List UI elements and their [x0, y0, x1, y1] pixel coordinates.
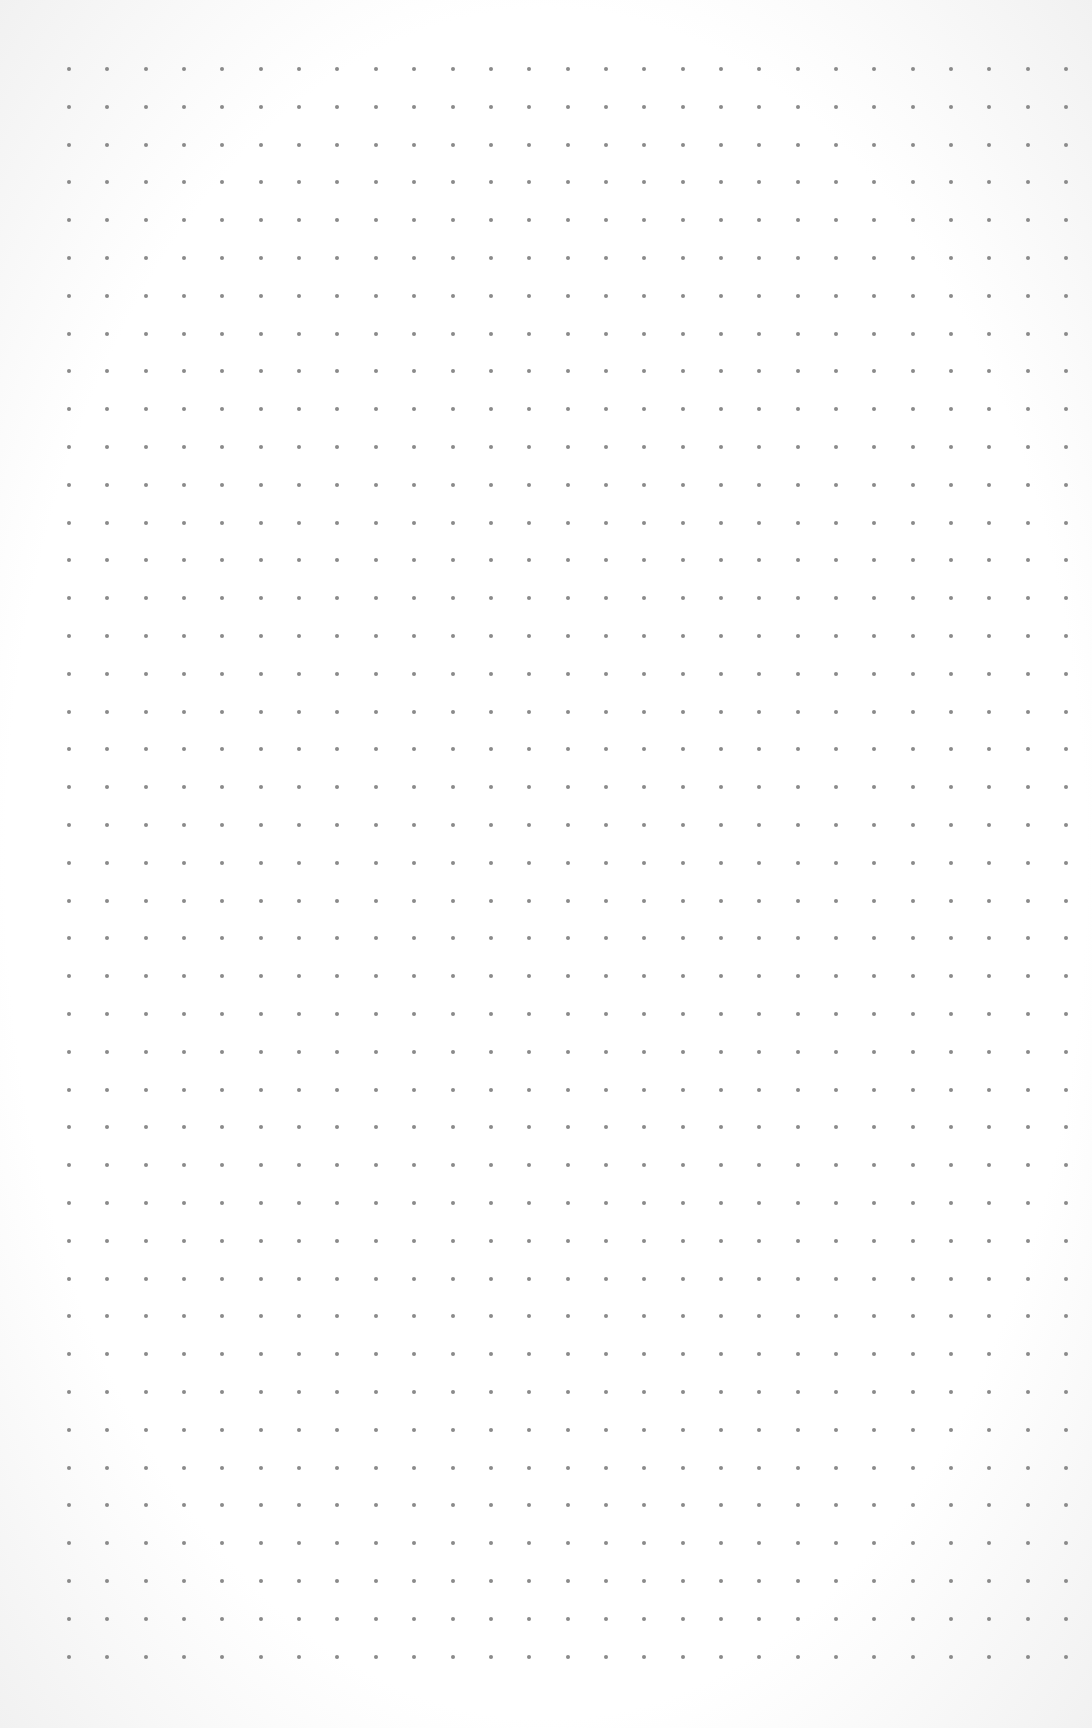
- grid-dot: [1026, 67, 1030, 71]
- grid-dot: [182, 1503, 186, 1507]
- grid-dot: [1026, 105, 1030, 109]
- grid-dot: [259, 558, 263, 562]
- grid-dot: [67, 1125, 71, 1129]
- grid-dot: [1064, 1579, 1068, 1583]
- grid-dot: [719, 1579, 723, 1583]
- grid-dot: [911, 143, 915, 147]
- grid-dot: [105, 1503, 109, 1507]
- grid-dot: [412, 747, 416, 751]
- grid-dot: [566, 294, 570, 298]
- grid-dot: [949, 974, 953, 978]
- grid-dot: [297, 1277, 301, 1281]
- grid-dot: [1026, 1579, 1030, 1583]
- grid-dot: [105, 558, 109, 562]
- grid-dot: [642, 1428, 646, 1432]
- grid-dot: [872, 180, 876, 184]
- grid-dot: [911, 369, 915, 373]
- grid-dot: [757, 67, 761, 71]
- grid-dot: [1026, 1050, 1030, 1054]
- grid-dot: [105, 67, 109, 71]
- grid-dot: [220, 218, 224, 222]
- grid-dot: [566, 332, 570, 336]
- grid-dot: [335, 218, 339, 222]
- grid-dot: [796, 1125, 800, 1129]
- grid-dot: [144, 445, 148, 449]
- grid-dot: [566, 1163, 570, 1167]
- grid-dot: [681, 1466, 685, 1470]
- grid-dot: [527, 67, 531, 71]
- grid-dot: [719, 218, 723, 222]
- grid-dot: [527, 180, 531, 184]
- grid-dot: [987, 67, 991, 71]
- grid-dot: [335, 1125, 339, 1129]
- grid-dot: [297, 67, 301, 71]
- grid-dot: [911, 218, 915, 222]
- grid-dot: [412, 936, 416, 940]
- grid-dot: [757, 861, 761, 865]
- grid-dot: [566, 1239, 570, 1243]
- grid-dot: [105, 785, 109, 789]
- grid-dot: [1026, 747, 1030, 751]
- grid-dot: [642, 1617, 646, 1621]
- grid-dot: [1064, 823, 1068, 827]
- grid-dot: [642, 369, 646, 373]
- grid-dot: [489, 143, 493, 147]
- grid-dot: [489, 218, 493, 222]
- grid-dot: [1026, 483, 1030, 487]
- grid-dot: [566, 67, 570, 71]
- grid-dot: [220, 974, 224, 978]
- grid-dot: [1026, 861, 1030, 865]
- grid-dot: [949, 105, 953, 109]
- grid-dot: [144, 1050, 148, 1054]
- grid-dot: [335, 1541, 339, 1545]
- grid-dot: [144, 936, 148, 940]
- grid-dot: [67, 785, 71, 789]
- grid-dot: [489, 105, 493, 109]
- grid-dot: [220, 1314, 224, 1318]
- grid-dot: [527, 1125, 531, 1129]
- grid-dot: [297, 521, 301, 525]
- grid-dot: [796, 294, 800, 298]
- grid-dot: [834, 1314, 838, 1318]
- grid-dot: [144, 823, 148, 827]
- grid-dot: [297, 143, 301, 147]
- grid-dot: [834, 143, 838, 147]
- grid-dot: [374, 1277, 378, 1281]
- grid-dot: [259, 1201, 263, 1205]
- grid-dot: [719, 1428, 723, 1432]
- grid-dot: [105, 823, 109, 827]
- grid-dot: [67, 218, 71, 222]
- grid-dot: [566, 1428, 570, 1432]
- grid-dot: [796, 445, 800, 449]
- grid-dot: [911, 407, 915, 411]
- grid-dot: [182, 1239, 186, 1243]
- grid-dot: [220, 445, 224, 449]
- grid-dot: [681, 483, 685, 487]
- grid-dot: [681, 1163, 685, 1167]
- grid-dot: [374, 1050, 378, 1054]
- grid-dot: [681, 445, 685, 449]
- grid-dot: [681, 180, 685, 184]
- grid-dot: [681, 218, 685, 222]
- grid-dot: [374, 294, 378, 298]
- grid-dot: [67, 1239, 71, 1243]
- grid-dot: [949, 1277, 953, 1281]
- grid-dot: [220, 407, 224, 411]
- grid-dot: [757, 445, 761, 449]
- grid-dot: [105, 1390, 109, 1394]
- grid-dot: [987, 218, 991, 222]
- grid-dot: [757, 1201, 761, 1205]
- grid-dot: [681, 634, 685, 638]
- grid-dot: [681, 1050, 685, 1054]
- grid-dot: [566, 143, 570, 147]
- grid-dot: [105, 332, 109, 336]
- grid-dot: [297, 1617, 301, 1621]
- grid-dot: [220, 332, 224, 336]
- grid-dot: [527, 218, 531, 222]
- grid-dot: [1064, 67, 1068, 71]
- grid-dot: [1064, 1201, 1068, 1205]
- grid-dot: [335, 105, 339, 109]
- grid-dot: [987, 899, 991, 903]
- grid-dot: [757, 294, 761, 298]
- grid-dot: [105, 1125, 109, 1129]
